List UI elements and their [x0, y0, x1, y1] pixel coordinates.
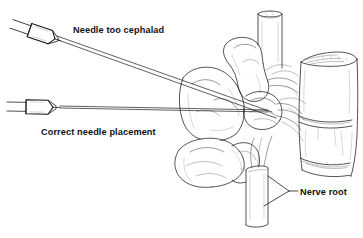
illustration-canvas: Needle too cephalad Correct needle place… [0, 0, 363, 238]
nerve-root-leader [264, 176, 298, 206]
label-needle-too-cephalad: Needle too cephalad [73, 25, 164, 35]
anatomy-illustration: Needle too cephalad Correct needle place… [0, 0, 363, 238]
syringe-correct [7, 100, 60, 115]
label-correct-needle-placement: Correct needle placement [41, 127, 156, 137]
syringe-cephalad [9, 17, 63, 47]
label-nerve-root: Nerve root [300, 187, 347, 197]
vertebral-body [299, 52, 358, 177]
nerve-root-tube [246, 136, 272, 228]
transverse-process [179, 67, 245, 141]
